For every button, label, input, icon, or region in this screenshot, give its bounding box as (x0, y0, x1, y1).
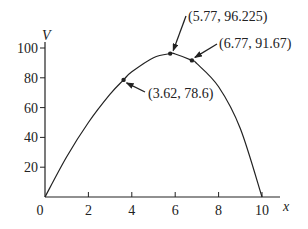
data-point (168, 51, 172, 55)
x-tick-label: 2 (85, 203, 92, 218)
annotation-label: (3.62, 78.6) (148, 86, 214, 102)
y-tick-label: 20 (24, 160, 38, 175)
y-tick-label: 100 (17, 41, 38, 56)
ticks: 024681020406080100 (17, 41, 269, 218)
annotation-label: (6.77, 91.67) (219, 36, 292, 52)
x-axis-label: x (282, 199, 290, 214)
x-tick-label: 4 (128, 203, 135, 218)
y-tick-label: 80 (24, 71, 38, 86)
annotation-arrow (195, 44, 217, 57)
annotation-arrow (127, 83, 145, 92)
annotation-label: (5.77, 96.225) (188, 9, 268, 25)
data-curve (45, 53, 262, 197)
x-tick-label: 10 (255, 203, 269, 218)
y-tick-label: 40 (24, 130, 38, 145)
annotations: (3.62, 78.6)(5.77, 96.225)(6.77, 91.67) (127, 9, 292, 102)
x-tick-label: 6 (172, 203, 179, 218)
data-point (190, 58, 194, 62)
x-tick-label: 8 (215, 203, 222, 218)
y-axis-label: V (42, 28, 52, 43)
data-point (121, 78, 125, 82)
chart: 024681020406080100 (3.62, 78.6)(5.77, 96… (0, 0, 308, 229)
x-tick-label: 0 (37, 203, 44, 218)
annotation-arrow (173, 16, 186, 51)
axes (45, 42, 280, 197)
y-tick-label: 60 (24, 101, 38, 116)
